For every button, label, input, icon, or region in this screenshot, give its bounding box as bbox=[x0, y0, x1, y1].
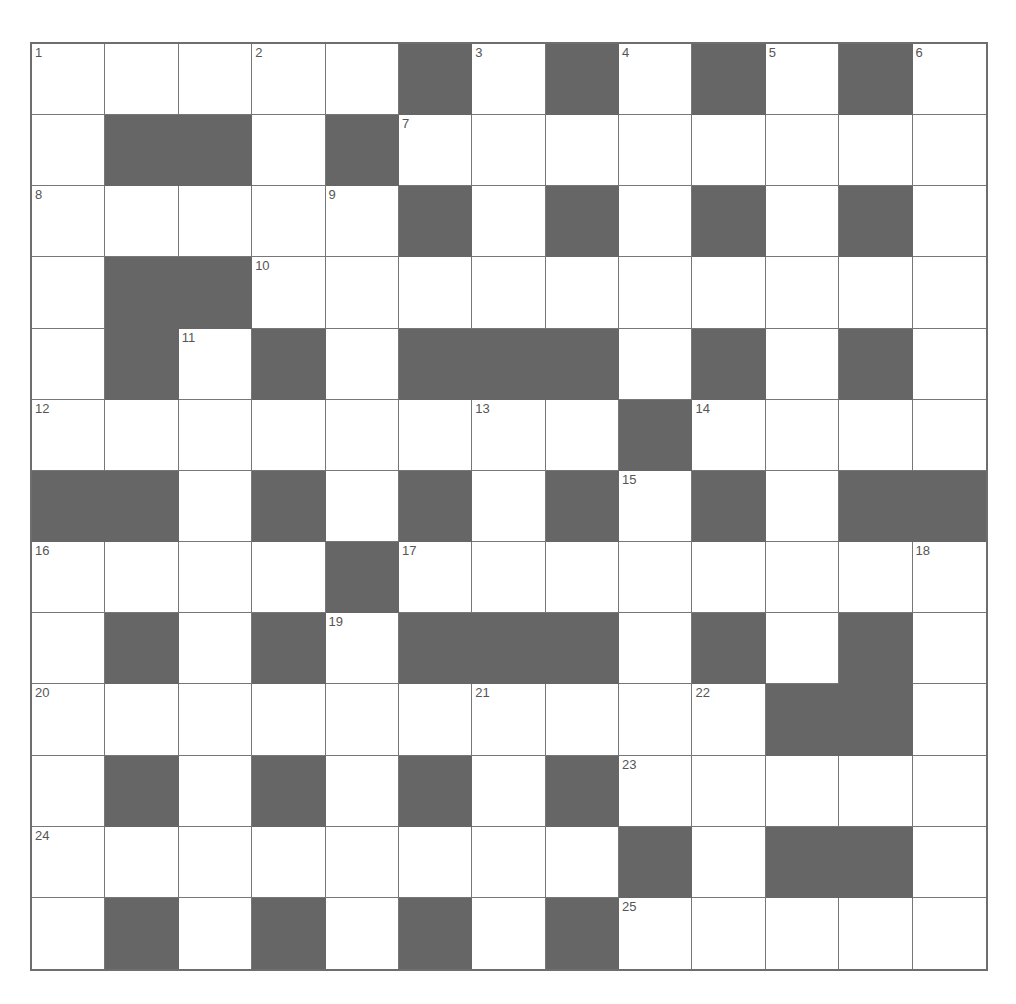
answer-cell[interactable]: 1 bbox=[32, 44, 105, 115]
answer-cell[interactable] bbox=[32, 329, 105, 400]
answer-cell[interactable]: 5 bbox=[766, 44, 839, 115]
answer-cell[interactable] bbox=[472, 898, 545, 969]
answer-cell[interactable]: 18 bbox=[913, 542, 986, 613]
answer-cell[interactable] bbox=[252, 542, 325, 613]
answer-cell[interactable] bbox=[839, 542, 912, 613]
answer-cell[interactable]: 2 bbox=[252, 44, 325, 115]
answer-cell[interactable] bbox=[692, 898, 765, 969]
answer-cell[interactable] bbox=[179, 542, 252, 613]
answer-cell[interactable] bbox=[692, 756, 765, 827]
answer-cell[interactable] bbox=[546, 827, 619, 898]
answer-cell[interactable] bbox=[472, 827, 545, 898]
answer-cell[interactable] bbox=[839, 400, 912, 471]
answer-cell[interactable] bbox=[179, 186, 252, 257]
answer-cell[interactable] bbox=[179, 684, 252, 755]
answer-cell[interactable] bbox=[619, 329, 692, 400]
answer-cell[interactable] bbox=[179, 898, 252, 969]
answer-cell[interactable] bbox=[105, 542, 178, 613]
answer-cell[interactable] bbox=[472, 756, 545, 827]
answer-cell[interactable] bbox=[913, 613, 986, 684]
answer-cell[interactable] bbox=[619, 115, 692, 186]
answer-cell[interactable] bbox=[32, 898, 105, 969]
answer-cell[interactable] bbox=[766, 115, 839, 186]
answer-cell[interactable] bbox=[766, 329, 839, 400]
answer-cell[interactable] bbox=[839, 756, 912, 827]
answer-cell[interactable] bbox=[399, 257, 472, 328]
answer-cell[interactable] bbox=[619, 542, 692, 613]
answer-cell[interactable] bbox=[326, 329, 399, 400]
answer-cell[interactable]: 16 bbox=[32, 542, 105, 613]
answer-cell[interactable] bbox=[252, 115, 325, 186]
answer-cell[interactable] bbox=[326, 898, 399, 969]
answer-cell[interactable] bbox=[399, 400, 472, 471]
answer-cell[interactable]: 10 bbox=[252, 257, 325, 328]
answer-cell[interactable] bbox=[913, 898, 986, 969]
answer-cell[interactable] bbox=[179, 756, 252, 827]
answer-cell[interactable] bbox=[326, 257, 399, 328]
answer-cell[interactable]: 9 bbox=[326, 186, 399, 257]
answer-cell[interactable] bbox=[913, 329, 986, 400]
answer-cell[interactable] bbox=[326, 684, 399, 755]
answer-cell[interactable] bbox=[913, 186, 986, 257]
answer-cell[interactable]: 25 bbox=[619, 898, 692, 969]
answer-cell[interactable]: 3 bbox=[472, 44, 545, 115]
answer-cell[interactable] bbox=[913, 400, 986, 471]
answer-cell[interactable] bbox=[839, 257, 912, 328]
answer-cell[interactable] bbox=[619, 684, 692, 755]
answer-cell[interactable] bbox=[766, 613, 839, 684]
answer-cell[interactable]: 8 bbox=[32, 186, 105, 257]
answer-cell[interactable] bbox=[546, 257, 619, 328]
answer-cell[interactable]: 4 bbox=[619, 44, 692, 115]
answer-cell[interactable] bbox=[839, 115, 912, 186]
answer-cell[interactable] bbox=[105, 684, 178, 755]
answer-cell[interactable]: 19 bbox=[326, 613, 399, 684]
answer-cell[interactable] bbox=[105, 186, 178, 257]
answer-cell[interactable] bbox=[32, 257, 105, 328]
answer-cell[interactable] bbox=[472, 115, 545, 186]
answer-cell[interactable] bbox=[766, 400, 839, 471]
answer-cell[interactable] bbox=[326, 827, 399, 898]
answer-cell[interactable] bbox=[326, 756, 399, 827]
answer-cell[interactable] bbox=[766, 186, 839, 257]
answer-cell[interactable] bbox=[913, 684, 986, 755]
answer-cell[interactable]: 6 bbox=[913, 44, 986, 115]
answer-cell[interactable] bbox=[252, 400, 325, 471]
answer-cell[interactable] bbox=[546, 115, 619, 186]
answer-cell[interactable] bbox=[692, 827, 765, 898]
answer-cell[interactable] bbox=[913, 756, 986, 827]
answer-cell[interactable] bbox=[179, 827, 252, 898]
answer-cell[interactable] bbox=[252, 186, 325, 257]
answer-cell[interactable] bbox=[32, 613, 105, 684]
answer-cell[interactable] bbox=[546, 542, 619, 613]
answer-cell[interactable] bbox=[472, 186, 545, 257]
answer-cell[interactable] bbox=[32, 115, 105, 186]
answer-cell[interactable] bbox=[692, 115, 765, 186]
answer-cell[interactable]: 24 bbox=[32, 827, 105, 898]
answer-cell[interactable] bbox=[766, 542, 839, 613]
answer-cell[interactable] bbox=[619, 186, 692, 257]
answer-cell[interactable] bbox=[546, 684, 619, 755]
answer-cell[interactable] bbox=[766, 898, 839, 969]
answer-cell[interactable]: 11 bbox=[179, 329, 252, 400]
answer-cell[interactable]: 12 bbox=[32, 400, 105, 471]
answer-cell[interactable] bbox=[619, 613, 692, 684]
answer-cell[interactable] bbox=[913, 827, 986, 898]
answer-cell[interactable] bbox=[105, 44, 178, 115]
answer-cell[interactable] bbox=[105, 827, 178, 898]
answer-cell[interactable] bbox=[472, 471, 545, 542]
answer-cell[interactable] bbox=[326, 400, 399, 471]
answer-cell[interactable] bbox=[913, 257, 986, 328]
answer-cell[interactable] bbox=[766, 471, 839, 542]
answer-cell[interactable] bbox=[179, 400, 252, 471]
answer-cell[interactable]: 17 bbox=[399, 542, 472, 613]
answer-cell[interactable]: 7 bbox=[399, 115, 472, 186]
answer-cell[interactable]: 15 bbox=[619, 471, 692, 542]
answer-cell[interactable] bbox=[766, 257, 839, 328]
answer-cell[interactable]: 14 bbox=[692, 400, 765, 471]
answer-cell[interactable] bbox=[105, 400, 178, 471]
answer-cell[interactable]: 21 bbox=[472, 684, 545, 755]
answer-cell[interactable]: 13 bbox=[472, 400, 545, 471]
answer-cell[interactable] bbox=[399, 827, 472, 898]
answer-cell[interactable] bbox=[326, 471, 399, 542]
answer-cell[interactable] bbox=[32, 756, 105, 827]
